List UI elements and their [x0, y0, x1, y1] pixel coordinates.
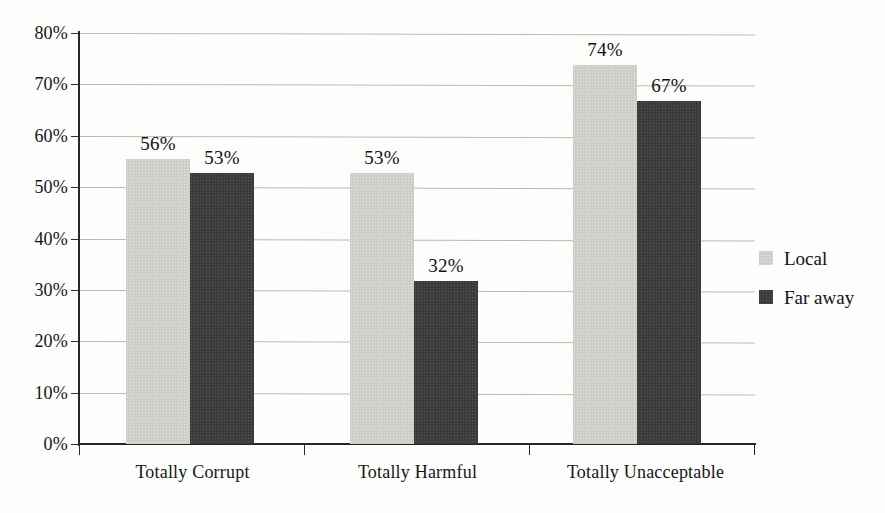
bar-totally-unacceptable-far-away: [637, 101, 701, 444]
legend-item-far-away: Far away: [759, 287, 885, 307]
chart-legend: Local Far away: [759, 248, 885, 326]
category-label-totally-harmful: Totally Harmful: [325, 462, 510, 482]
value-label-totally-unacceptable-far-away: 67%: [634, 76, 704, 95]
legend-swatch-local-icon: [759, 251, 773, 265]
x-tick-2: [529, 444, 530, 455]
value-label-totally-harmful-local: 53%: [347, 148, 417, 167]
value-label-totally-unacceptable-local: 74%: [570, 40, 640, 59]
value-label-totally-corrupt-far-away: 53%: [187, 148, 257, 167]
value-label-totally-corrupt-local: 56%: [123, 134, 193, 153]
x-tick-1: [304, 444, 305, 455]
legend-swatch-far-away-icon: [759, 290, 773, 304]
legend-item-local: Local: [759, 248, 885, 268]
x-tick-3: [754, 444, 755, 455]
legend-label-far-away: Far away: [784, 288, 854, 307]
bar-totally-corrupt-far-away: [190, 173, 254, 444]
category-label-totally-corrupt: Totally Corrupt: [100, 462, 285, 482]
x-tick-0: [79, 444, 80, 455]
bar-chart: 80% 70% 60% 50% 40% 30% 20% 10% 0% 56% 5…: [0, 0, 885, 513]
bar-totally-harmful-far-away: [414, 281, 478, 444]
bars-layer: [0, 0, 885, 444]
bar-totally-unacceptable-local: [573, 65, 637, 444]
legend-label-local: Local: [784, 249, 827, 268]
bar-totally-harmful-local: [350, 173, 414, 444]
bar-totally-corrupt-local: [126, 159, 190, 444]
value-label-totally-harmful-far-away: 32%: [411, 256, 481, 275]
category-label-totally-unacceptable: Totally Unacceptable: [538, 462, 753, 482]
